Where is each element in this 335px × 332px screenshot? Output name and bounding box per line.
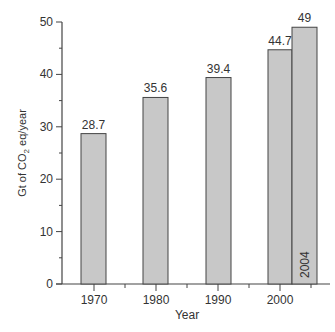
bar-1990	[206, 78, 231, 284]
bar-1970	[81, 134, 106, 284]
bar-label-2004: 2004	[298, 251, 312, 278]
value-label-2000: 44.7	[268, 34, 292, 48]
bar-2004	[292, 27, 317, 284]
x-tick-label: 1980	[143, 293, 170, 307]
y-tick-label: 40	[40, 67, 54, 81]
x-tick-label: 1990	[205, 293, 232, 307]
bar-1980	[143, 97, 168, 284]
y-tick-label: 30	[40, 120, 54, 134]
value-label-2004: 49	[298, 11, 312, 25]
value-label-1990: 39.4	[207, 62, 231, 76]
bar-2000	[268, 50, 292, 284]
value-label-1980: 35.6	[144, 81, 168, 95]
y-axis-label: Gt of CO2 eq/year	[16, 109, 31, 197]
x-axis-label: Year	[175, 308, 199, 322]
y-tick-label: 0	[46, 277, 53, 291]
y-tick-label: 10	[40, 225, 54, 239]
bar-chart: 01020304050Gt of CO2 eq/year197019801990…	[0, 0, 335, 332]
y-tick-label: 20	[40, 172, 54, 186]
x-tick-label: 1970	[81, 293, 108, 307]
y-tick-label: 50	[40, 15, 54, 29]
x-tick-label: 2000	[267, 293, 294, 307]
value-label-1970: 28.7	[82, 118, 106, 132]
bars	[81, 27, 317, 284]
